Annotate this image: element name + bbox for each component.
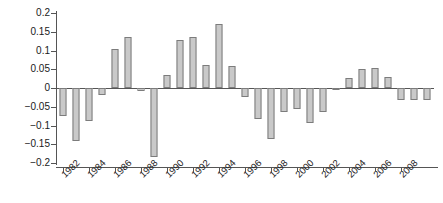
- x-axis-tick: [297, 167, 298, 172]
- x-axis-tick-label: 1982: [59, 157, 82, 180]
- x-axis-tick-label: 1984: [85, 157, 108, 180]
- x-axis-tick: [323, 167, 324, 172]
- y-axis-tick: [51, 126, 56, 127]
- y-axis-tick: [51, 144, 56, 145]
- x-axis-tick: [193, 167, 194, 172]
- y-axis-tick: [51, 13, 56, 14]
- x-axis-tick: [219, 167, 220, 172]
- x-axis-tick: [115, 167, 116, 172]
- x-axis-tick: [89, 167, 90, 172]
- y-axis-tick: [51, 69, 56, 70]
- x-axis-tick: [375, 167, 376, 172]
- bar-chart-figure: 0.20.150.10.050−0.05−0.1−0.15−0.2 198219…: [0, 0, 443, 203]
- x-axis-tick: [167, 167, 168, 172]
- y-axis-tick: [51, 88, 56, 89]
- y-axis-tick: [51, 32, 56, 33]
- x-axis-tick: [349, 167, 350, 172]
- x-axis-labels: 1982198419861988199019921994199619982000…: [0, 0, 443, 203]
- x-axis-tick: [245, 167, 246, 172]
- y-axis-tick: [51, 163, 56, 164]
- y-axis-tick: [51, 51, 56, 52]
- x-axis-tick: [271, 167, 272, 172]
- x-axis-tick: [63, 167, 64, 172]
- x-axis-tick: [401, 167, 402, 172]
- x-axis-tick: [141, 167, 142, 172]
- y-axis-tick: [51, 107, 56, 108]
